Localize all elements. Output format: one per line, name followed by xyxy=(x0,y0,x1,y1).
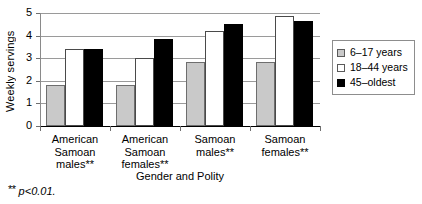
bar-group xyxy=(251,13,321,126)
x-axis-title: Gender and Polity xyxy=(40,170,320,182)
legend-item: 45–oldest xyxy=(337,75,408,90)
y-tick-label-1: 1 xyxy=(18,97,32,108)
bar xyxy=(84,49,103,126)
plot-area xyxy=(40,13,320,126)
bar xyxy=(65,49,84,126)
y-tick-label-5: 5 xyxy=(18,7,32,18)
bar xyxy=(116,85,135,126)
bar xyxy=(205,31,224,126)
bar-group xyxy=(111,13,181,126)
plot-inner xyxy=(41,13,320,126)
x-tick-mark xyxy=(320,126,321,131)
bar-group-bars xyxy=(181,13,256,126)
bar xyxy=(224,24,243,126)
bar xyxy=(135,58,154,126)
y-axis-title: Weekly servings xyxy=(2,18,18,124)
legend-item: 18–44 years xyxy=(337,60,408,75)
bar-group-bars xyxy=(111,13,186,126)
bar xyxy=(186,62,205,126)
x-tick-mark xyxy=(110,126,111,131)
legend-swatch-icon xyxy=(337,49,345,57)
legend-label: 6–17 years xyxy=(350,47,402,58)
x-tick-mark xyxy=(180,126,181,131)
bar xyxy=(46,85,65,126)
legend-swatch-icon xyxy=(337,64,345,72)
x-category-label: Samoan females** xyxy=(250,133,320,158)
x-tick-mark xyxy=(40,126,41,131)
legend-label: 45–oldest xyxy=(350,77,396,88)
y-tick-label-0: 0 xyxy=(18,120,32,131)
footnote-text: p<0.01. xyxy=(16,185,56,197)
x-category-label: Samoan males** xyxy=(180,133,250,158)
y-tick-label-4: 4 xyxy=(18,30,32,41)
bar-group xyxy=(181,13,251,126)
y-tick-label-2: 2 xyxy=(18,75,32,86)
y-tick-label-3: 3 xyxy=(18,52,32,63)
bar-group-bars xyxy=(251,13,326,126)
x-category-label: American Samoan females** xyxy=(110,133,180,171)
legend-swatch-icon xyxy=(337,79,345,87)
legend-label: 18–44 years xyxy=(350,62,408,73)
legend: 6–17 years18–44 years45–oldest xyxy=(332,40,415,95)
x-tick-mark xyxy=(250,126,251,131)
bar-chart-figure: Weekly servings 012345 American Samoan m… xyxy=(0,0,422,204)
bar-group xyxy=(41,13,111,126)
legend-item: 6–17 years xyxy=(337,45,408,60)
bar xyxy=(256,62,275,126)
bar-group-bars xyxy=(41,13,116,126)
bar xyxy=(275,16,294,126)
x-category-label: American Samoan males** xyxy=(40,133,110,171)
bar xyxy=(294,21,313,126)
footnote: ** p<0.01. xyxy=(8,183,56,197)
footnote-stars: ** xyxy=(8,183,16,195)
bar xyxy=(154,39,173,126)
